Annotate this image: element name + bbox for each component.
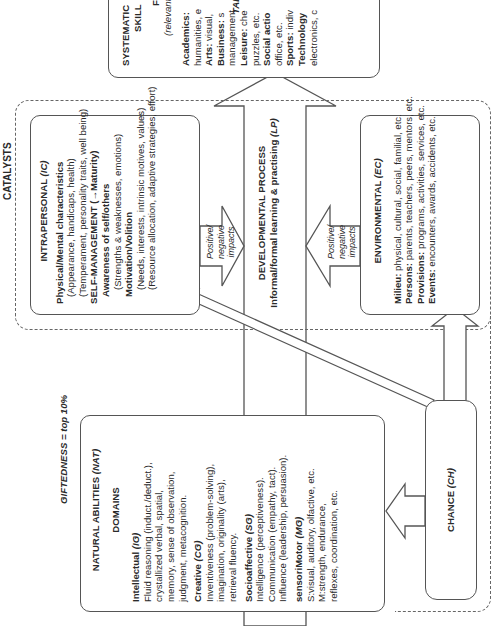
environmental-impact-label: Positive/ negative impacts [326, 222, 358, 262]
intrapersonal-title: INTRAPERSONAL (IC) [38, 118, 50, 304]
domains-label: DOMAINS [110, 418, 122, 602]
intrapersonal-impact-label: Positive/ negative impacts [205, 222, 237, 262]
env-item-milieu: Milieu: physical, cultural, social, fami… [392, 118, 404, 304]
talent-field-sports: Sports: indiv [284, 0, 296, 66]
domain-socioaffective: Socioaffective (SG) Intelligence (percep… [243, 418, 289, 602]
domain-intellectual: Intellectual (IG) Fluid reasoning (induc… [130, 418, 188, 602]
awareness-heading: Awareness of self/others [100, 118, 112, 304]
talent-fields: Academics: humanities, e Arts: visual, B… [180, 0, 319, 66]
talent-field-business: Business: s management [215, 0, 238, 66]
domain-sensorimotor: sensoriMotor (MG) S:visual, auditory, ol… [293, 418, 339, 602]
awareness-line: (Strengths & weaknesses, emotions) [112, 118, 124, 304]
natural-abilities-title: NATURAL ABILITIES (NAT) [90, 418, 102, 602]
talent-field-leisure: Leisure: che puzzles, etc. [238, 0, 261, 66]
developmental-process-subtitle: Informal/formal learning & practising (L… [268, 118, 280, 308]
developmental-process-title: DEVELOPMENTAL PROCESS [256, 118, 268, 308]
physical-mental-line: (Appearance, handicaps, health) [65, 118, 77, 304]
talent-field-arts: Arts: visual, [203, 0, 215, 66]
motivation-heading: Motivation/Volition [123, 118, 135, 304]
self-management-heading: SELF-MANAGEMENT (→Maturity) [88, 118, 100, 304]
talent-sub-initial: F [150, 0, 162, 6]
talent-field-academics: Academics: humanities, e [180, 0, 203, 66]
talent-field-social-action: Social actio office, etc. [261, 0, 284, 66]
chance-up-arrow [432, 308, 478, 404]
chance-label: CHANCE (CH) [445, 400, 457, 600]
talent-sub-note: (relevant t [162, 0, 174, 36]
env-item-persons: Persons: parents, teachers, peers, mento… [403, 118, 415, 304]
talent-title-line1: SYSTEMATIC [120, 5, 132, 66]
giftedness-heading: GIFTEDNESS = top 10% [58, 395, 70, 504]
chance-to-nat-arrow [386, 484, 425, 538]
environmental-title: ENVIRONMENTAL (EC) [372, 118, 384, 304]
natural-abilities-content: NATURAL ABILITIES (NAT) DOMAINS Intellec… [90, 418, 339, 602]
domain-creative: Creative (CG) Inventiveness (problem-sol… [192, 418, 238, 602]
motivation-line: (Needs, interests, intrinsic motives, va… [135, 118, 147, 304]
env-item-events: Events: encounters, awards, accidents, e… [426, 118, 438, 304]
talent-title-line2: SKILL [132, 4, 144, 32]
physical-mental-heading: Physical/Mental characteristics [54, 118, 66, 304]
motivation-line: (Resource allocation, adaptive strategie… [146, 118, 158, 304]
environmental-content: ENVIRONMENTAL (EC) Milieu: physical, cul… [372, 118, 438, 304]
talent-field-technology: Technology electronics, c [296, 0, 319, 66]
developmental-process-label: DEVELOPMENTAL PROCESS Informal/formal le… [256, 118, 280, 308]
gagne-dmgt-diagram: CATALYSTS TALE SYSTEMATIC SKILL F (relev… [0, 0, 494, 626]
physical-mental-line: (Temperament, personality traits, well b… [77, 118, 89, 304]
env-item-provisions: Provisions: programs, activities, servic… [415, 118, 427, 304]
intrapersonal-content: INTRAPERSONAL (IC) Physical/Mental chara… [38, 118, 158, 304]
